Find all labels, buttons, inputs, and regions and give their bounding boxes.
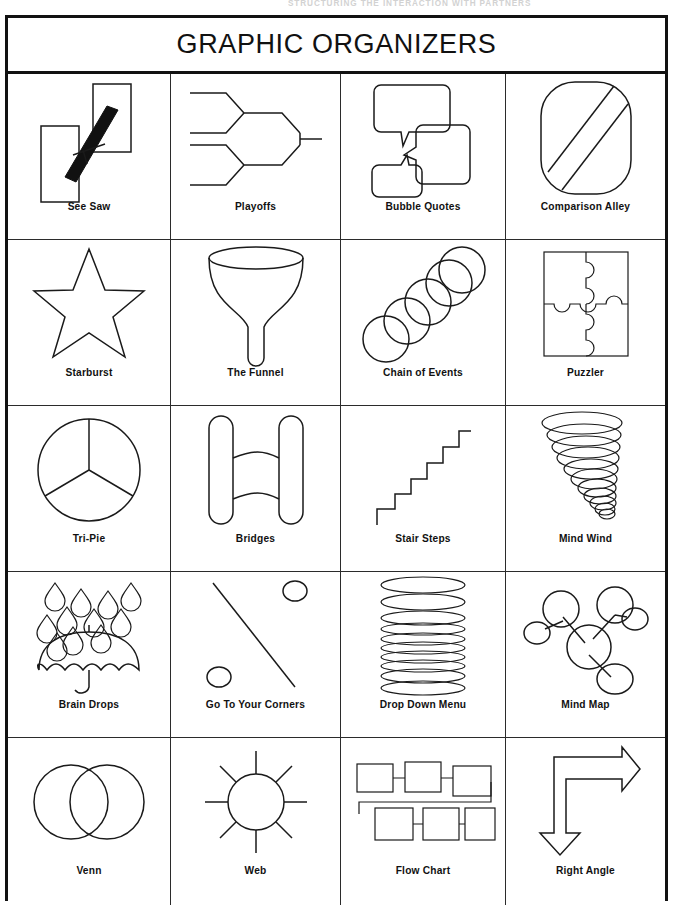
- organizer-cell-stair-steps[interactable]: Stair Steps: [341, 406, 506, 571]
- organizer-label: Drop Down Menu: [380, 700, 467, 710]
- organizer-label: Stair Steps: [395, 534, 450, 544]
- organizer-cell-go-to-your-corners[interactable]: Go To Your Corners: [171, 572, 341, 737]
- organizer-cell-playoffs[interactable]: Playoffs: [171, 74, 341, 239]
- organizer-cell-brain-drops[interactable]: Brain Drops: [8, 572, 171, 737]
- organizer-cell-comparison-alley[interactable]: Comparison Alley: [506, 74, 665, 239]
- mind-map-icon: [506, 572, 665, 700]
- organizer-label: Comparison Alley: [541, 202, 630, 212]
- playoffs-bracket-icon: [171, 74, 340, 202]
- organizer-row: Brain Drops Go To Your Corners: [8, 572, 665, 738]
- page-title: GRAPHIC ORGANIZERS: [177, 31, 497, 58]
- running-head: Structuring the Interaction with Partner…: [288, 0, 668, 10]
- table-title-row: GRAPHIC ORGANIZERS: [8, 18, 665, 74]
- organizer-label: See Saw: [68, 202, 111, 212]
- organizer-row: Starburst The Funnel: [8, 240, 665, 406]
- graphic-organizers-table: GRAPHIC ORGANIZERS See Saw: [5, 15, 668, 901]
- organizer-label: Bridges: [236, 534, 275, 544]
- organizer-cell-puzzler[interactable]: Puzzler: [506, 240, 665, 405]
- organizer-row: Tri-Pie Bridges: [8, 406, 665, 572]
- organizer-label: Mind Wind: [559, 534, 612, 544]
- organizer-cell-web[interactable]: Web: [171, 738, 341, 905]
- organizer-cell-right-angle[interactable]: Right Angle: [506, 738, 665, 905]
- organizer-cell-tri-pie[interactable]: Tri-Pie: [8, 406, 171, 571]
- drop-down-menu-icon: [341, 572, 505, 700]
- organizer-grid: See Saw Playoffs: [8, 74, 665, 905]
- organizer-label: Chain of Events: [383, 368, 463, 378]
- organizer-label: Playoffs: [235, 202, 276, 212]
- organizer-label: Mind Map: [561, 700, 610, 710]
- starburst-star-icon: [8, 240, 170, 368]
- umbrella-raindrops-icon: [8, 572, 170, 700]
- organizer-cell-venn[interactable]: Venn: [8, 738, 171, 905]
- organizer-label: Bubble Quotes: [385, 202, 460, 212]
- organizer-cell-flow-chart[interactable]: Flow Chart: [341, 738, 506, 905]
- organizer-cell-mind-wind[interactable]: Mind Wind: [506, 406, 665, 571]
- organizer-row: See Saw Playoffs: [8, 74, 665, 240]
- organizer-cell-bridges[interactable]: Bridges: [171, 406, 341, 571]
- organizer-row: Venn Web: [8, 738, 665, 905]
- organizer-cell-mind-map[interactable]: Mind Map: [506, 572, 665, 737]
- organizer-label: The Funnel: [227, 368, 283, 378]
- organizer-label: Go To Your Corners: [206, 700, 305, 710]
- bridges-icon: [171, 406, 340, 534]
- comparison-alley-icon: [506, 74, 665, 202]
- organizer-cell-starburst[interactable]: Starburst: [8, 240, 171, 405]
- bubble-quotes-icon: [341, 74, 505, 202]
- organizer-label: Puzzler: [567, 368, 604, 378]
- organizer-label: Starburst: [65, 368, 112, 378]
- organizer-cell-the-funnel[interactable]: The Funnel: [171, 240, 341, 405]
- mind-wind-tornado-icon: [506, 406, 665, 534]
- puzzle-pieces-icon: [506, 240, 665, 368]
- organizer-label: Brain Drops: [59, 700, 120, 710]
- right-angle-arrow-icon: [506, 738, 665, 866]
- go-to-your-corners-icon: [171, 572, 340, 700]
- chain-of-events-icon: [341, 240, 505, 368]
- flow-chart-icon: [341, 738, 505, 866]
- tri-pie-icon: [8, 406, 170, 534]
- venn-diagram-icon: [8, 738, 170, 866]
- stair-steps-icon: [341, 406, 505, 534]
- organizer-cell-chain-of-events[interactable]: Chain of Events: [341, 240, 506, 405]
- web-spokes-icon: [171, 738, 340, 866]
- organizer-label: Web: [245, 866, 267, 876]
- organizer-label: Venn: [76, 866, 101, 876]
- see-saw-icon: [8, 74, 170, 202]
- organizer-label: Flow Chart: [396, 866, 451, 876]
- organizer-label: Tri-Pie: [73, 534, 106, 544]
- organizer-cell-bubble-quotes[interactable]: Bubble Quotes: [341, 74, 506, 239]
- organizer-cell-see-saw[interactable]: See Saw: [8, 74, 171, 239]
- funnel-icon: [171, 240, 340, 368]
- organizer-cell-drop-down-menu[interactable]: Drop Down Menu: [341, 572, 506, 737]
- organizer-label: Right Angle: [556, 866, 615, 876]
